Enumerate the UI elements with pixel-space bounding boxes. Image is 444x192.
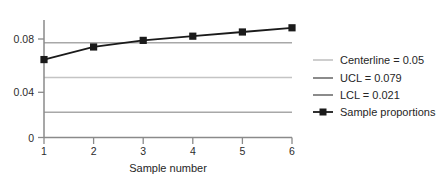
data-point-marker xyxy=(140,37,147,44)
y-tick-label-0: 0 xyxy=(28,132,34,144)
data-point-marker xyxy=(189,33,196,40)
x-tick-label-3: 3 xyxy=(140,145,146,157)
x-tick-label-1: 1 xyxy=(41,145,47,157)
chart-screenshot: 0 0.04 0.08 1 2 3 4 5 6 Sample number Ce… xyxy=(0,0,444,192)
x-axis-title: Sample number xyxy=(129,162,207,174)
data-point-marker xyxy=(40,56,47,63)
p-chart: 0 0.04 0.08 1 2 3 4 5 6 Sample number Ce… xyxy=(0,0,444,192)
x-tick-label-4: 4 xyxy=(190,145,196,157)
data-point-marker xyxy=(288,24,295,31)
legend-label-ucl: UCL = 0.079 xyxy=(340,72,402,84)
x-tick-label-5: 5 xyxy=(239,145,245,157)
data-point-marker xyxy=(90,43,97,50)
x-tick-label-2: 2 xyxy=(91,145,97,157)
x-tick-label-6: 6 xyxy=(289,145,295,157)
legend-label-lcl: LCL = 0.021 xyxy=(340,89,400,101)
legend-swatch-marker-icon xyxy=(320,109,327,116)
legend-label-centerline: Centerline = 0.05 xyxy=(340,54,424,66)
y-tick-label-004: 0.04 xyxy=(14,86,35,98)
y-tick-label-008: 0.08 xyxy=(14,33,35,45)
data-point-marker xyxy=(239,28,246,35)
legend-label-sample-proportions: Sample proportions xyxy=(340,106,436,118)
